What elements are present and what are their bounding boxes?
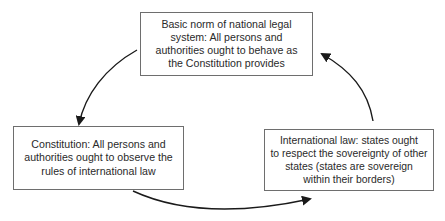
node-international-law: International law: states ought to respe… (264, 129, 434, 191)
arrow-international-law-to-basic-norm (322, 54, 373, 121)
node-constitution-text: Constitution: All persons and authoritie… (24, 138, 172, 178)
node-basic-norm: Basic norm of national legal system: All… (140, 12, 313, 76)
node-basic-norm-text: Basic norm of national legal system: All… (156, 18, 298, 71)
node-constitution: Constitution: All persons and authoritie… (13, 126, 184, 190)
node-international-law-text: International law: states ought to respe… (270, 134, 427, 187)
arrow-basic-norm-to-constitution (79, 50, 137, 124)
arrow-constitution-to-international-law (133, 191, 310, 209)
